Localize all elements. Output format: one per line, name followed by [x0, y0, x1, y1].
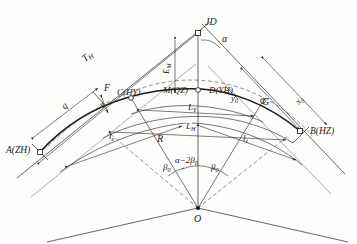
offset-tangent-left: [31, 64, 196, 197]
radial-line-dashed-left: [108, 132, 198, 208]
label-point-m-qz: M(QZ): [163, 86, 188, 95]
radial-line-to-chy: [131, 98, 198, 208]
label-angle-beta-right: β0: [211, 163, 219, 173]
main-alignment-curve: [40, 89, 300, 152]
dim-line-lh: [112, 132, 286, 140]
label-curve-lh: LH: [186, 122, 195, 132]
label-spiral-lz-left-sub: z: [112, 136, 114, 142]
label-curve-ly: LY: [188, 103, 196, 113]
radial-line-to-dyh: [198, 101, 263, 208]
label-point-f: F: [104, 84, 110, 94]
dim-line-g: [243, 70, 300, 130]
diagram-canvas: [0, 0, 357, 244]
label-angle-central: α−2β0: [175, 156, 198, 166]
marker-qz: [196, 88, 201, 93]
marker-jd: [195, 30, 200, 35]
radial-line-long-left: [47, 208, 198, 242]
label-spiral-lz-left: lz: [109, 132, 114, 142]
marker-o: [196, 206, 200, 210]
label-angle-beta-right-sub: 0: [215, 167, 218, 173]
arc-band-ly: [131, 106, 263, 122]
dim-line-lz-right: [200, 126, 296, 160]
label-spiral-lz-right-sub: z: [246, 138, 248, 144]
label-external-em: EM: [162, 63, 172, 74]
tangent-line-right: [202, 24, 345, 174]
label-point-d-yh: D(YH): [209, 86, 233, 95]
label-curve-ly-sub: Y: [193, 107, 196, 113]
dim-line-th: [40, 33, 198, 162]
dim-line-q: [34, 88, 98, 137]
label-angle-central-sub: 0: [195, 160, 198, 166]
label-point-c-hy: C(HY): [117, 88, 141, 97]
label-point-a-zh: A(ZH): [6, 146, 30, 156]
label-jd: JD: [205, 17, 217, 27]
dim-line-lz-left: [68, 126, 182, 166]
label-curve-lh-sub: H: [191, 126, 195, 132]
label-external-em-base: E: [161, 69, 171, 75]
label-angle-beta-left-sub: 0: [167, 167, 170, 173]
radial-line-long-right: [198, 208, 348, 242]
label-chord-g: G: [262, 97, 269, 107]
label-angle-central-base: α−2β: [175, 155, 195, 165]
dim-line-x0: [264, 59, 327, 125]
dim-line-ly: [140, 110, 254, 116]
label-spiral-lz-right: lz: [243, 134, 248, 144]
marker-zh: [37, 149, 42, 154]
label-radius-r: R: [157, 134, 163, 144]
label-angle-alpha: α: [222, 34, 227, 44]
angle-arc-alpha: [201, 40, 220, 48]
marker-hz: [297, 128, 302, 133]
transition-curve-diagram: JD α TH EM A(ZH) B(HZ) q F p C(HY) M(QZ)…: [0, 0, 357, 244]
label-angle-beta-left: β0: [163, 163, 171, 173]
label-external-em-sub: M: [166, 63, 172, 68]
label-offset-y0-sub: 0: [235, 98, 238, 104]
label-offset-y0: y0: [231, 94, 238, 104]
label-point-b-hz: B(HZ): [310, 127, 334, 137]
label-point-o: O: [194, 214, 201, 224]
